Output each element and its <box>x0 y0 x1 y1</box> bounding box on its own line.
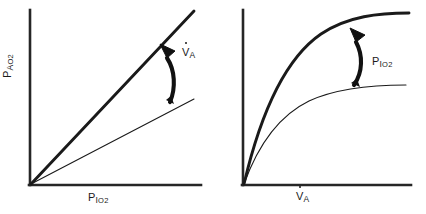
right-arrow-pio2 <box>350 28 365 87</box>
left-arrow-va <box>160 44 175 104</box>
panel-left <box>0 0 213 214</box>
right-x-axis-sub-a: A <box>304 194 310 204</box>
right-annotation-p: P <box>372 55 380 67</box>
v-dot-glyph-x: V <box>296 191 304 202</box>
panel-right <box>213 0 426 214</box>
y-axis-label-sub-a: A <box>5 65 15 71</box>
y-axis-label-o-num: 2 <box>6 54 15 58</box>
annotation-v: V <box>182 46 190 58</box>
right-axes <box>242 10 411 185</box>
y-axis-label-p: P <box>1 70 13 78</box>
curve-high-inspired-po2 <box>244 13 409 184</box>
right-curves <box>244 13 409 184</box>
left-arrow-annotation-label: VA <box>182 47 195 58</box>
x-axis-label-o-num: 2 <box>104 196 108 205</box>
physiology-figure: PAO2 PIO2 VA VA PIO2 <box>0 0 426 214</box>
curve-low-inspired-po2 <box>244 85 406 184</box>
annotation-sub-a: A <box>190 50 196 60</box>
y-axis-label-o: O <box>6 59 15 65</box>
curve-low-ventilation <box>31 99 194 184</box>
v-dot-glyph: V <box>182 47 190 58</box>
left-y-axis-label: PAO2 <box>2 54 13 78</box>
x-axis-label-p: P <box>88 191 96 203</box>
left-x-axis-label: PIO2 <box>88 192 109 203</box>
right-annotation-o-num: 2 <box>388 60 392 69</box>
right-arrow-annotation-label: PIO2 <box>372 56 393 67</box>
right-x-axis-v: V <box>296 190 304 202</box>
right-x-axis-label: VA <box>296 191 309 202</box>
